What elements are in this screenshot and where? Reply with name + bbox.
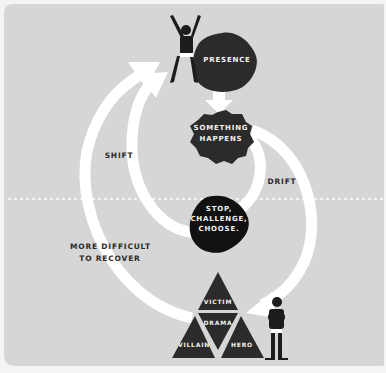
shift-label: SHIFT xyxy=(104,151,134,160)
recover-label-line1: MORE DIFFICULT xyxy=(70,242,150,251)
drift-label: DRIFT xyxy=(264,177,300,186)
presence-label: PRESENCE xyxy=(198,56,256,64)
something-happens-label-line1: SOMETHING xyxy=(192,124,250,132)
recover-label-line2: TO RECOVER xyxy=(70,254,150,263)
shift-arrow xyxy=(132,85,192,232)
victim-label: VICTIM xyxy=(198,298,238,305)
stop-label-line1: STOP, xyxy=(190,205,248,213)
stop-label-line3: CHOOSE. xyxy=(190,225,248,233)
diagram-graphics xyxy=(0,0,386,373)
villain-label: VILLAIN xyxy=(172,341,216,348)
stop-label-line2: CHALLENGE, xyxy=(190,215,248,223)
something-happens-label-line2: HAPPENS xyxy=(192,135,250,143)
hero-label: HERO xyxy=(222,341,262,348)
drama-label: DRAMA xyxy=(198,319,238,326)
